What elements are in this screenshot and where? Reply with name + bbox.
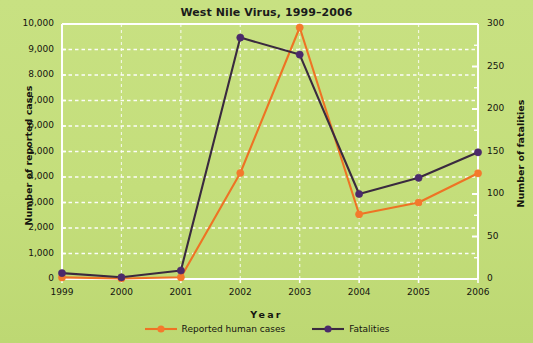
right-tick-label: 100 bbox=[487, 188, 527, 198]
data-point bbox=[58, 270, 65, 277]
chart-legend: Reported human casesFatalities bbox=[0, 324, 533, 334]
legend-item[interactable]: Fatalities bbox=[311, 324, 389, 334]
data-point bbox=[296, 51, 303, 58]
x-tick-label: 1999 bbox=[37, 287, 87, 297]
gridlines bbox=[62, 24, 478, 279]
x-tick-label: 2002 bbox=[215, 287, 265, 297]
left-tick-label: 2,000 bbox=[0, 222, 54, 232]
data-point bbox=[237, 34, 244, 41]
data-point bbox=[415, 174, 422, 181]
data-point bbox=[474, 149, 481, 156]
legend-item[interactable]: Reported human cases bbox=[144, 324, 286, 334]
data-point bbox=[177, 274, 184, 281]
x-tick-label: 2006 bbox=[453, 287, 503, 297]
x-axis-title: Year bbox=[0, 309, 533, 320]
data-point bbox=[118, 274, 125, 281]
left-tick-label: 9,000 bbox=[0, 44, 54, 54]
left-tick-label: 6,000 bbox=[0, 120, 54, 130]
legend-label: Reported human cases bbox=[182, 324, 286, 334]
left-tick-label: 7,000 bbox=[0, 95, 54, 105]
right-tick-label: 150 bbox=[487, 146, 527, 156]
series-line-1 bbox=[62, 38, 478, 278]
series-line-0 bbox=[62, 28, 478, 279]
legend-label: Fatalities bbox=[349, 324, 389, 334]
right-tick-label: 250 bbox=[487, 61, 527, 71]
data-point bbox=[356, 211, 363, 218]
right-tick-label: 200 bbox=[487, 103, 527, 113]
data-point bbox=[474, 170, 481, 177]
left-tick-label: 0 bbox=[0, 273, 54, 283]
x-tick-label: 2000 bbox=[96, 287, 146, 297]
x-tick-label: 2005 bbox=[394, 287, 444, 297]
left-tick-label: 10,000 bbox=[0, 18, 54, 28]
legend-marker-icon bbox=[144, 324, 178, 334]
chart-container: West Nile Virus, 1999–2006 Number of rep… bbox=[0, 0, 533, 343]
legend-marker-icon bbox=[311, 324, 345, 334]
x-tick-label: 2004 bbox=[334, 287, 384, 297]
right-axis-ticks bbox=[62, 24, 478, 283]
right-tick-label: 0 bbox=[487, 273, 527, 283]
x-tick-label: 2001 bbox=[156, 287, 206, 297]
left-tick-label: 3,000 bbox=[0, 197, 54, 207]
left-tick-label: 5,000 bbox=[0, 146, 54, 156]
left-tick-label: 4,000 bbox=[0, 171, 54, 181]
data-point bbox=[356, 190, 363, 197]
x-tick-label: 2003 bbox=[275, 287, 325, 297]
right-tick-label: 300 bbox=[487, 18, 527, 28]
data-point bbox=[296, 24, 303, 31]
data-point bbox=[237, 169, 244, 176]
data-point bbox=[415, 199, 422, 206]
right-tick-label: 50 bbox=[487, 231, 527, 241]
left-tick-label: 8.000 bbox=[0, 69, 54, 79]
data-point bbox=[177, 267, 184, 274]
left-tick-label: 1,000 bbox=[0, 248, 54, 258]
